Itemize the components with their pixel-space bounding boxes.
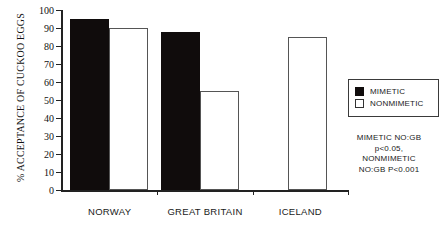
y-tick-label: 80 (44, 41, 54, 52)
annotation-line-2: p<0.05, (330, 144, 448, 155)
x-axis-line (61, 190, 348, 192)
y-tick-mark (56, 46, 62, 47)
bar-norway-nonmimetic (109, 28, 148, 190)
bar-iceland-nonmimetic (288, 37, 327, 190)
y-tick-label: 20 (44, 149, 54, 160)
x-category-separator (157, 190, 158, 195)
y-tick-label: 60 (44, 77, 54, 88)
y-tick-mark (56, 136, 62, 137)
plot-area: 0102030405060708090100 NORWAYGREAT BRITA… (62, 10, 348, 190)
legend-item-mimetic: MIMETIC (355, 87, 432, 96)
y-tick-mark (56, 100, 62, 101)
x-category-label: ICELAND (279, 206, 322, 217)
y-tick-mark (56, 190, 62, 191)
y-tick-label: 0 (49, 185, 54, 196)
annotation-line-3: NONMIMETIC (330, 154, 448, 165)
y-tick-label: 90 (44, 23, 54, 34)
y-tick-label: 70 (44, 59, 54, 70)
y-tick-mark (56, 10, 62, 11)
y-tick-label: 10 (44, 167, 54, 178)
legend: MIMETIC NONMIMETIC (348, 79, 439, 117)
y-tick-mark (56, 28, 62, 29)
legend-item-nonmimetic: NONMIMETIC (355, 99, 432, 108)
y-tick-label: 40 (44, 113, 54, 124)
filled-square-icon (355, 87, 364, 96)
bar-chart: % ACCEPTANCE OF CUCKOO EGGS 010203040506… (0, 0, 448, 230)
significance-annotation: MIMETIC NO:GB p<0.05, NONMIMETIC NO:GB P… (330, 133, 448, 175)
y-tick-label: 100 (39, 5, 54, 16)
annotation-line-4: NO:GB P<0.001 (330, 165, 448, 176)
y-tick-mark (56, 118, 62, 119)
bar-great-britain-nonmimetic (200, 91, 239, 190)
legend-label-nonmimetic: NONMIMETIC (370, 99, 424, 108)
annotation-line-1: MIMETIC NO:GB (330, 133, 448, 144)
y-tick-mark (56, 64, 62, 65)
bar-norway-mimetic (70, 19, 109, 190)
x-category-separator (253, 190, 254, 195)
bar-great-britain-mimetic (161, 32, 200, 190)
y-tick-label: 50 (44, 95, 54, 106)
x-category-separator (348, 190, 349, 195)
y-axis-title: % ACCEPTANCE OF CUCKOO EGGS (15, 0, 26, 196)
x-category-label: NORWAY (88, 206, 131, 217)
y-tick-label: 30 (44, 131, 54, 142)
y-tick-mark (56, 172, 62, 173)
legend-label-mimetic: MIMETIC (370, 87, 405, 96)
y-tick-mark (56, 154, 62, 155)
y-tick-mark (56, 82, 62, 83)
open-square-icon (355, 99, 364, 108)
x-category-label: GREAT BRITAIN (167, 206, 242, 217)
